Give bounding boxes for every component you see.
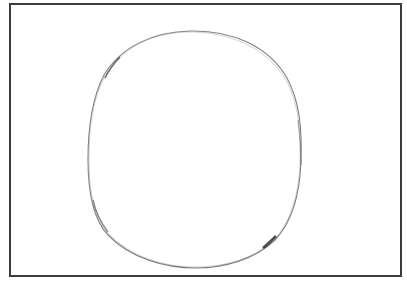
circle-outline-sketch [89,32,300,267]
circle-outline [88,31,301,268]
pencil-pressure-mark [105,57,120,78]
pencil-pressure-mark [263,236,276,248]
pencil-circle-drawing [0,0,407,285]
pencil-pressure-mark [93,200,108,232]
